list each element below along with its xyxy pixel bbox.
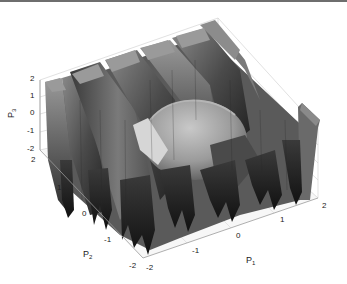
y-tick: 0: [82, 209, 87, 218]
y-tick: 1: [57, 183, 62, 192]
surface-plot: 2 1 0 -1 -2 P3 2 1 0 -1 -2 P2 -2 -1 0 1 …: [0, 0, 347, 284]
x-tick: -1: [192, 246, 200, 255]
x-axis-label: P1: [246, 255, 256, 266]
y-tick: -1: [104, 235, 112, 244]
x-tick: 2: [322, 201, 327, 210]
z-tick: 2: [30, 74, 35, 83]
x-tick: -2: [146, 263, 154, 272]
y-tick: 2: [31, 155, 36, 164]
z-axis-label: P3: [6, 108, 17, 118]
z-tick: 0: [30, 108, 35, 117]
z-tick: -2: [27, 144, 35, 153]
x-tick: 1: [280, 215, 285, 224]
surface: [45, 20, 320, 255]
x-tick: 0: [236, 231, 241, 240]
z-tick: -1: [27, 126, 35, 135]
y-axis-label: P2: [83, 249, 93, 260]
y-tick: -2: [129, 261, 137, 270]
z-tick: 1: [30, 91, 35, 100]
z-axis: 2 1 0 -1 -2 P3: [6, 74, 35, 153]
